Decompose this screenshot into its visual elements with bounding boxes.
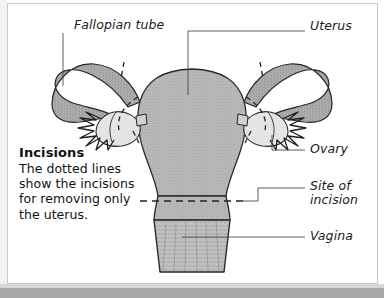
label-site-of-incision: Site of incision: [310, 179, 380, 206]
label-site-of-incision-line2: incision: [310, 192, 358, 207]
incisions-note: Incisions The dotted lines show the inci…: [19, 145, 144, 222]
cervix: [154, 196, 230, 220]
label-ovary: Ovary: [310, 142, 348, 156]
label-uterus: Uterus: [310, 19, 352, 33]
uterus-body: [138, 69, 246, 196]
vagina: [154, 220, 230, 272]
label-fallopian-tube: Fallopian tube: [74, 18, 164, 32]
incision-left-tube: [121, 62, 124, 78]
label-vagina: Vagina: [310, 229, 353, 243]
incisions-note-body: The dotted lines show the incisions for …: [19, 161, 144, 222]
incisions-note-title: Incisions: [19, 145, 144, 160]
incision-right-tube: [260, 62, 263, 78]
leader-site-of-incision: [243, 188, 305, 201]
figure-page: Fallopian tube Uterus Ovary Site of inci…: [0, 0, 384, 298]
page-bottom-band: [0, 288, 384, 298]
